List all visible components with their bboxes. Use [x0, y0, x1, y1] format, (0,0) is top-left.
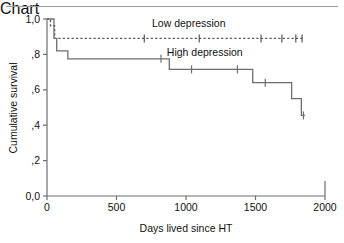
y-tick-label: 1,0: [25, 13, 40, 25]
x-tick-label: 500: [108, 201, 126, 213]
y-tick-label: ,4: [31, 119, 40, 131]
y-tick-label: ,2: [31, 154, 40, 166]
x-tick-label: 1500: [244, 201, 268, 213]
y-tick-label: ,8: [31, 48, 40, 60]
series-inline-labels: Low depressionHigh depression: [152, 17, 243, 58]
x-tick-label: 0: [44, 201, 50, 213]
series-label-low-depression: Low depression: [152, 17, 226, 29]
x-axis-title: Days lived since HT: [140, 222, 233, 234]
survival-chart: 0,0,2,4,6,81,0 0500100015002000 Low depr…: [0, 0, 344, 243]
series-line-high-depression: [47, 19, 305, 115]
x-axis-tick-labels: 0500100015002000: [44, 201, 337, 213]
y-tick-label: ,6: [31, 83, 40, 95]
x-tick-label: 2000: [313, 201, 337, 213]
y-tick-label: 0,0: [25, 190, 40, 202]
figure-container: 0,0,2,4,6,81,0 0500100015002000 Low depr…: [0, 0, 344, 243]
series-label-high-depression: High depression: [167, 46, 243, 58]
y-axis-title: Cumulative survival: [7, 62, 19, 153]
series-curves: [47, 19, 305, 115]
y-axis-tick-labels: 0,0,2,4,6,81,0: [25, 13, 40, 202]
x-tick-label: 1000: [174, 201, 198, 213]
x-axis-ticks: [47, 196, 325, 200]
